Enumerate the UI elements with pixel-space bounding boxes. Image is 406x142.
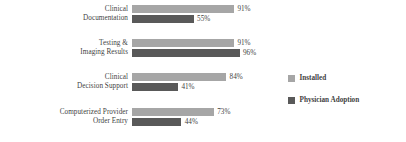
bar-physician-adoption — [132, 15, 194, 23]
category-label: Computerized Provider Order Entry — [0, 108, 132, 126]
legend-item-label: Installed — [295, 74, 326, 83]
bar-value-installed: 84% — [226, 73, 243, 81]
bar-physician-adoption — [132, 83, 178, 91]
category-label: Clinical Documentation — [0, 5, 132, 23]
bar-row-physician-adoption: 44% — [132, 118, 198, 126]
bar-group-computerized-provider-order-entry: Computerized Provider Order Entry 73% 44… — [0, 105, 285, 129]
chart-legend: Installed Physician Adoption — [288, 74, 406, 118]
bar-physician-adoption — [132, 118, 181, 126]
bars-wrap: 73% 44% — [132, 107, 285, 128]
bars-wrap: 84% 41% — [132, 72, 285, 93]
bar-installed — [132, 73, 226, 81]
category-label-line: Documentation — [0, 14, 128, 23]
legend-item-installed[interactable]: Installed — [288, 74, 406, 83]
bar-value-physician-adoption: 55% — [194, 15, 211, 23]
plot-area: Clinical Documentation 91% 55% Testing &… — [0, 0, 285, 142]
bar-group-testing-imaging-results: Testing & Imaging Results 91% 96% — [0, 36, 285, 60]
bar-row-physician-adoption: 41% — [132, 83, 195, 91]
category-label-line: Imaging Results — [0, 48, 128, 57]
legend-item-physician-adoption[interactable]: Physician Adoption — [288, 96, 406, 105]
bar-group-clinical-documentation: Clinical Documentation 91% 55% — [0, 2, 285, 26]
bar-chart: Clinical Documentation 91% 55% Testing &… — [0, 0, 406, 142]
legend-swatch-icon — [288, 97, 295, 104]
bar-group-clinical-decision-support: Clinical Decision Support 84% 41% — [0, 70, 285, 94]
bar-value-physician-adoption: 96% — [240, 49, 257, 57]
bar-value-physician-adoption: 41% — [178, 83, 195, 91]
bar-row-installed: 73% — [132, 108, 230, 116]
category-label-line: Testing & — [0, 39, 128, 48]
legend-swatch-icon — [288, 75, 295, 82]
bar-installed — [132, 39, 234, 47]
category-label: Clinical Decision Support — [0, 73, 132, 91]
bar-row-physician-adoption: 96% — [132, 49, 256, 57]
bar-row-installed: 84% — [132, 73, 243, 81]
bar-installed — [132, 108, 214, 116]
legend-item-label: Physician Adoption — [295, 96, 359, 105]
bar-row-installed: 91% — [132, 39, 251, 47]
category-label-line: Order Entry — [0, 117, 128, 126]
bar-physician-adoption — [132, 49, 240, 57]
bar-value-physician-adoption: 44% — [181, 118, 198, 126]
bars-wrap: 91% 96% — [132, 38, 285, 59]
bar-installed — [132, 5, 234, 13]
category-label-line: Clinical — [0, 73, 128, 82]
category-label: Testing & Imaging Results — [0, 39, 132, 57]
bar-row-physician-adoption: 55% — [132, 15, 210, 23]
bar-value-installed: 91% — [234, 5, 251, 13]
bar-value-installed: 73% — [214, 108, 231, 116]
bars-wrap: 91% 55% — [132, 4, 285, 25]
category-label-line: Clinical — [0, 5, 128, 14]
category-label-line: Decision Support — [0, 82, 128, 91]
bar-row-installed: 91% — [132, 5, 251, 13]
category-label-line: Computerized Provider — [0, 108, 128, 117]
bar-value-installed: 91% — [234, 39, 251, 47]
